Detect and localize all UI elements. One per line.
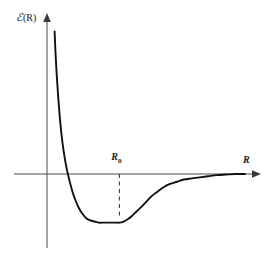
y-axis-label-argument: (R) [23,12,36,23]
x-axis-label: R [243,155,250,165]
potential-energy-figure: ℰ(R) R R0 [0,0,275,260]
y-axis-label-symbol: ℰ [16,11,23,24]
y-axis-arrowhead [43,13,51,22]
equilibrium-distance-label: R0 [111,152,121,165]
y-axis [43,13,51,248]
plot-canvas [0,0,275,260]
potential-energy-curve [55,31,245,222]
y-axis-label: ℰ(R) [16,12,36,23]
x-axis-arrowhead [252,170,261,178]
equilibrium-label-subscript: 0 [118,157,122,165]
